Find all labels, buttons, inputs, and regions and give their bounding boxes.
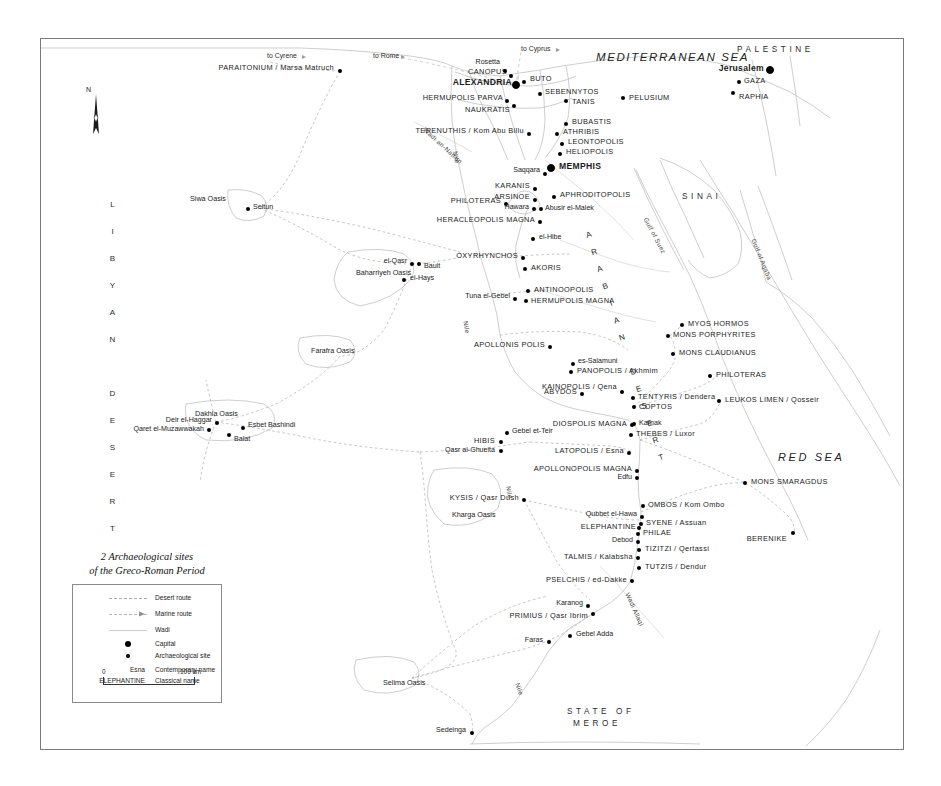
legend: 2 Archaeological sites of the Greco-Roma…: [72, 550, 222, 703]
oasis-label: Farafra Oasis: [311, 347, 355, 354]
place-label: Seitun: [253, 204, 273, 211]
site-dot-icon: [555, 132, 559, 136]
place-label: MONS CLAUDIANUS: [679, 349, 756, 356]
place-label: PELUSIUM: [629, 94, 670, 101]
legend-title-line1: 2 Archaeological sites: [72, 550, 222, 564]
capital-dot-icon: [512, 81, 520, 89]
site-dot-icon: [671, 352, 675, 356]
place-label: AKORIS: [531, 264, 561, 271]
site-dot-icon: [509, 74, 513, 78]
site-dot-icon: [637, 566, 641, 570]
site-dot-icon: [538, 92, 542, 96]
place-label: PHILAE: [643, 529, 671, 536]
place-label: PSELCHIS / ed-Dakke: [546, 576, 627, 583]
place-label: el-Hays: [410, 275, 434, 282]
place-label: HERMUPOLIS MAGNA: [531, 297, 615, 304]
legend-row-marine-route: Marine route: [73, 609, 221, 621]
site-dot-icon: [636, 532, 640, 536]
site-dot-icon: [737, 80, 741, 84]
place-label: DIOSPOLIS MAGNA: [553, 420, 627, 427]
site-dot-icon: [569, 370, 573, 374]
site-dot-icon: [522, 498, 526, 502]
site-dot-icon: [410, 262, 414, 266]
site-dot-icon: [503, 69, 507, 73]
place-label: MONS PORPHYRITES: [673, 331, 756, 338]
place-label: Qasr al-Ghueita: [445, 447, 495, 454]
place-label: TANIS: [572, 98, 595, 105]
place-label: HIBIS: [474, 437, 495, 444]
place-label: Faras: [525, 637, 543, 644]
site-dot-icon: [717, 399, 721, 403]
site-dot-icon: [558, 152, 562, 156]
site-dot-icon: [552, 195, 556, 199]
scale-bar-line: [103, 677, 195, 685]
site-dot-icon: [512, 104, 516, 108]
legend-box: Desert route Marine route Wadi Capital A…: [72, 584, 222, 703]
route-label: to Cyrene: [267, 53, 297, 60]
place-label: BUTO: [530, 75, 552, 82]
scale-start-label: 0: [102, 668, 106, 675]
place-label: Saqqara: [513, 167, 540, 174]
site-dot-icon: [791, 531, 795, 535]
place-label: Gebel et-Teir: [512, 428, 553, 435]
region-label: MEROE: [573, 720, 621, 728]
place-label: PHILOTERAS: [716, 371, 766, 378]
place-label: TENTYRIS / Dendera: [638, 393, 715, 400]
place-label: Gebel Adda: [576, 631, 613, 638]
site-dot-icon: [708, 374, 712, 378]
site-dot-icon: [526, 289, 530, 293]
site-dot-icon: [207, 428, 211, 432]
site-dot-icon: [636, 556, 640, 560]
site-dot-icon: [591, 612, 595, 616]
arrow-head-icon: [401, 55, 405, 59]
place-label: LEUKOS LIMEN / Qosseir: [725, 396, 819, 403]
region-label: SINAI: [682, 193, 721, 201]
site-dot-icon: [564, 99, 568, 103]
place-label: NAUKRATIS: [465, 106, 510, 113]
site-dot-icon: [505, 99, 509, 103]
place-label: ELEPHANTINE: [581, 523, 636, 530]
place-label: HERACLEOPOLIS MAGNA: [437, 216, 535, 223]
site-dot-icon: [743, 481, 747, 485]
oasis-label: Dakhla Oasis: [195, 410, 238, 417]
place-label: Hawara: [505, 204, 529, 211]
site-dot-icon: [635, 476, 639, 480]
place-label: KARANIS: [495, 182, 530, 189]
site-dot-icon: [627, 451, 631, 455]
site-dot-icon: [543, 172, 547, 176]
place-label: Rosetta: [476, 59, 500, 66]
site-dot-icon: [533, 187, 537, 191]
place-label: HELIOPOLIS: [566, 148, 613, 155]
legend-title-line2: of the Greco-Roman Period: [72, 564, 222, 578]
site-dot-icon: [571, 362, 575, 366]
place-label: KAINOPOLIS / Qena: [542, 383, 617, 390]
place-label: ATHRIBIS: [563, 128, 599, 135]
site-dot-icon: [631, 396, 635, 400]
site-dot-icon: [564, 122, 568, 126]
place-label: PRIMIUS / Qasr Ibrim: [510, 612, 588, 619]
site-dot-icon: [620, 390, 624, 394]
place-label: MYOS HORMOS: [688, 320, 749, 327]
site-dot-icon: [630, 579, 634, 583]
site-dot-icon: [636, 540, 640, 544]
legend-label-desert-route: Desert route: [155, 594, 191, 601]
route-label: to Cyprus: [521, 46, 551, 53]
place-label: LEONTOPOLIS: [568, 138, 624, 145]
place-label: TALMIS / Kalabsha: [564, 553, 633, 560]
place-label: Jerusalem: [719, 64, 764, 73]
capital-dot-icon: [547, 164, 555, 172]
legend-row-wadi: Wadi: [73, 625, 221, 637]
sea-label: MEDITERRANEAN SEA: [596, 52, 749, 64]
site-dot-icon: [586, 604, 590, 608]
site-dot-icon: [637, 548, 641, 552]
site-dot-icon: [417, 262, 421, 266]
site-dot-icon: [523, 267, 527, 271]
compass-rose: [88, 88, 104, 144]
arrow-head-icon: [139, 610, 147, 618]
site-dot-icon: [527, 132, 531, 136]
river-label: Nile: [462, 321, 470, 335]
place-label: OMBOS / Kom Ombo: [648, 501, 725, 508]
oasis-label: Baharriyeh Oasis: [356, 269, 411, 276]
dashed-line-icon: [109, 598, 147, 600]
thin-line-icon: [109, 630, 147, 632]
